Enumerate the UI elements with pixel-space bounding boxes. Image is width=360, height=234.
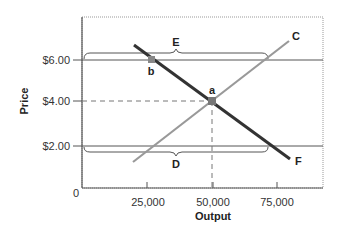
brace-E bbox=[84, 49, 268, 59]
label-a: a bbox=[209, 84, 216, 96]
label-F: F bbox=[295, 155, 302, 167]
brace-D bbox=[84, 147, 268, 156]
label-C: C bbox=[292, 30, 300, 42]
x-axis-title: Output bbox=[195, 210, 231, 222]
point-a bbox=[208, 97, 216, 105]
x-tick-label-50k: 50,000 bbox=[196, 196, 230, 208]
x-tick-label-25k: 25,000 bbox=[131, 196, 165, 208]
point-b bbox=[148, 56, 155, 63]
y-axis-title: Price bbox=[18, 88, 30, 115]
y-tick-label-2: $2.00 bbox=[42, 140, 70, 152]
label-D: D bbox=[172, 158, 180, 170]
label-b: b bbox=[148, 65, 155, 77]
label-E: E bbox=[172, 36, 179, 48]
y-tick-label-4: $4.00 bbox=[42, 95, 70, 107]
origin-label: 0 bbox=[73, 187, 79, 199]
y-tick-label-6: $6.00 bbox=[42, 54, 70, 66]
x-tick-label-75k: 75,000 bbox=[260, 196, 294, 208]
chart: $6.00 $4.00 $2.00 0 25,000 50,000 75,000… bbox=[0, 0, 360, 234]
